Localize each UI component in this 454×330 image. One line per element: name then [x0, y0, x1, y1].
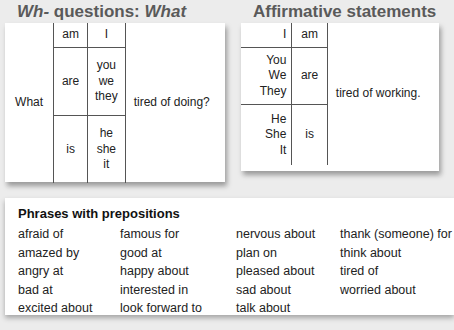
- phrase-item: angry at: [18, 262, 92, 281]
- table-row: I am tired of working.: [241, 23, 439, 48]
- affirmative-statements-panel: I am tired of working. You We They are H…: [241, 23, 439, 171]
- phrases-title: Phrases with prepositions: [18, 206, 180, 221]
- phrase-item: tired of: [340, 262, 452, 281]
- phrases-column: famous for good at happy about intereste…: [120, 225, 202, 318]
- subject-cell: you we they: [87, 48, 125, 116]
- subject-cell: he she it: [87, 116, 125, 184]
- phrases-column: thank (someone) for think about tired of…: [340, 225, 452, 299]
- wh-word-cell: What: [5, 23, 54, 183]
- verb-cell: am: [292, 23, 327, 48]
- subject: he: [88, 126, 125, 142]
- heading-wh: Wh-: [17, 2, 49, 21]
- subject: it: [88, 157, 125, 173]
- phrases-panel: Phrases with prepositions afraid of amaz…: [5, 198, 454, 315]
- phrase-item: thank (someone) for: [340, 225, 452, 244]
- phrase-item: happy about: [120, 262, 202, 281]
- subject: they: [88, 89, 125, 105]
- subject: She: [241, 127, 286, 143]
- subject: It: [241, 143, 286, 159]
- subject: I: [241, 27, 286, 43]
- subject: They: [241, 84, 286, 100]
- phrase-item: pleased about: [236, 262, 315, 281]
- phrase-item: good at: [120, 244, 202, 263]
- subject-cell: You We They: [241, 48, 292, 105]
- phrase-item: afraid of: [18, 225, 92, 244]
- subject: we: [88, 74, 125, 90]
- phrase-item: bad at: [18, 281, 92, 300]
- phrase-item: amazed by: [18, 244, 92, 263]
- phrase-item: think about: [340, 244, 452, 263]
- ending-cell: tired of working.: [327, 23, 439, 165]
- verb-cell: are: [292, 48, 327, 105]
- subject: You: [241, 53, 286, 69]
- wh-questions-table: What am I tired of doing? are you we the…: [5, 23, 225, 183]
- subject-cell: He She It: [241, 105, 292, 166]
- phrases-column: afraid of amazed by angry at bad at exci…: [18, 225, 92, 318]
- subject: you: [88, 58, 125, 74]
- heading-questions: questions:: [49, 2, 144, 21]
- affirmative-statements-heading: Affirmative statements: [253, 2, 436, 22]
- phrase-item: famous for: [120, 225, 202, 244]
- phrase-item: talk about: [236, 299, 315, 318]
- heading-what: What: [145, 2, 187, 21]
- subject: We: [241, 68, 286, 84]
- wh-questions-panel: What am I tired of doing? are you we the…: [5, 23, 225, 182]
- phrase-item: plan on: [236, 244, 315, 263]
- phrase-item: excited about: [18, 299, 92, 318]
- subject: He: [241, 112, 286, 128]
- affirmative-statements-table: I am tired of working. You We They are H…: [241, 23, 439, 165]
- phrases-column: nervous about plan on pleased about sad …: [236, 225, 315, 318]
- phrase-item: sad about: [236, 281, 315, 300]
- subject: I: [88, 27, 125, 43]
- subject-cell: I: [87, 23, 125, 48]
- phrase-item: look forward to: [120, 299, 202, 318]
- ending-cell: tired of doing?: [125, 23, 225, 183]
- verb-cell: am: [54, 23, 88, 48]
- verb-cell: is: [292, 105, 327, 166]
- subject: she: [88, 142, 125, 158]
- verb-cell: is: [54, 116, 88, 184]
- phrase-item: worried about: [340, 281, 452, 300]
- phrase-item: interested in: [120, 281, 202, 300]
- wh-questions-heading: Wh- questions: What: [17, 2, 186, 22]
- table-row: What am I tired of doing?: [5, 23, 225, 48]
- phrase-item: nervous about: [236, 225, 315, 244]
- verb-cell: are: [54, 48, 88, 116]
- subject-cell: I: [241, 23, 292, 48]
